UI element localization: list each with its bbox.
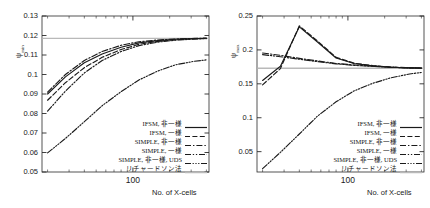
legend-label: リチャードソン法 (126, 163, 184, 173)
legend-item: リチャードソン法 (96, 163, 208, 172)
legend-line-sample (399, 127, 423, 136)
y-tick-label: 0.08 (6, 109, 38, 118)
data-series-line (48, 38, 207, 94)
legend-line-sample (184, 136, 208, 145)
data-series-line (48, 38, 207, 100)
legend-line-sample (184, 127, 208, 136)
panel-psi-max: ψmax No. of X-cells 1000.050.10.150.20.2… (215, 0, 430, 208)
legend-line-sample (184, 163, 208, 172)
legend-line-sample (399, 154, 423, 163)
figure-container: ψmin No. of X-cells 1000.050.060.070.080… (0, 0, 430, 208)
legend: IFSM, 非一様IFSM, 一様SIMPLE, 非一様SIMPLE, 一様SI… (311, 118, 423, 172)
legend-item: リチャードソン法 (311, 163, 423, 172)
data-series-line (48, 39, 207, 112)
legend-line-sample (184, 145, 208, 154)
y-tick-label: 0.09 (6, 89, 38, 98)
plot-area-right (215, 0, 430, 208)
y-tick-label: 0.05 (6, 167, 38, 176)
y-tick-label: 0.25 (221, 11, 253, 20)
legend-line-sample (184, 154, 208, 163)
x-tick-label: 100 (328, 175, 368, 185)
data-series-line (263, 26, 422, 85)
y-tick-label: 0.05 (221, 147, 253, 156)
x-tick-label: 100 (113, 175, 153, 185)
panel-psi-min: ψmin No. of X-cells 1000.050.060.070.080… (0, 0, 215, 208)
y-tick-label: 0.06 (6, 148, 38, 157)
legend-line-sample (184, 118, 208, 127)
y-tick-label: 0.2 (221, 45, 253, 54)
y-tick-label: 0.07 (6, 128, 38, 137)
y-tick-label: 0.13 (6, 11, 38, 20)
y-tick-label: 0.1 (221, 113, 253, 122)
legend-label: リチャードソン法 (341, 163, 399, 173)
legend: IFSM, 非一様IFSM, 一様SIMPLE, 非一様SIMPLE, 一様SI… (96, 118, 208, 172)
legend-line-sample (399, 163, 423, 172)
y-tick-label: 0.12 (6, 31, 38, 40)
legend-line-sample (399, 118, 423, 127)
y-tick-label: 0.11 (6, 50, 38, 59)
legend-line-sample (399, 145, 423, 154)
y-tick-label: 0.1 (6, 70, 38, 79)
x-axis-label-right: No. of X-cells (367, 188, 412, 197)
y-tick-label: 0.15 (221, 79, 253, 88)
x-axis-label-left: No. of X-cells (152, 188, 197, 197)
legend-line-sample (399, 136, 423, 145)
